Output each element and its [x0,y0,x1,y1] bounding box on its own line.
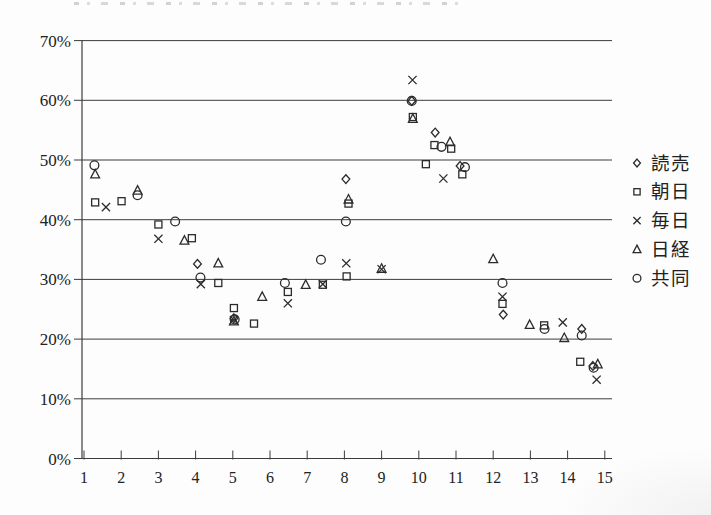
y-tick-label: 20% [40,330,71,349]
data-point-diamond [194,259,202,268]
data-point-triangle [377,264,386,272]
data-point-square [284,288,291,295]
y-tick-label: 50% [40,151,71,170]
legend-marker-x [633,217,640,224]
data-point-triangle [344,195,353,203]
data-point-square [215,279,222,286]
legend-marker-square [634,189,640,195]
x-tick-label: 8 [340,469,348,486]
legend-marker-triangle [633,245,641,252]
data-point-triangle [489,254,498,262]
data-point-square [188,235,195,242]
data-point-circle [133,191,142,200]
legend-label: 共同 [651,269,691,289]
data-point-circle [341,217,350,226]
x-tick-label: 11 [448,469,463,486]
y-tick-label: 0% [48,450,71,469]
data-point-x [408,76,416,84]
x-tick-label: 3 [154,469,162,486]
data-point-triangle [91,169,100,177]
x-tick-label: 5 [229,469,237,486]
data-point-square [230,305,237,312]
data-point-square [118,198,125,205]
data-point-square [155,221,162,228]
y-tick-label: 30% [40,270,71,289]
cropped-figure-caption [74,2,466,5]
data-point-diamond [499,310,507,319]
data-point-circle [498,279,507,288]
data-point-x [342,259,350,267]
legend-label: 毎日 [651,211,691,231]
data-point-triangle [214,258,223,266]
x-tick-label: 13 [522,469,538,486]
y-tick-label: 40% [40,211,71,230]
data-point-triangle [180,236,189,244]
x-tick-label: 4 [192,469,200,486]
x-tick-label: 7 [303,469,311,486]
legend-label: 読売 [651,154,691,174]
data-point-circle [90,161,99,170]
scanned-page: 0%10%20%30%40%50%60%70%12345678910111213… [0,0,711,515]
data-point-triangle [446,137,455,145]
data-point-triangle [258,292,267,300]
x-tick-label: 10 [411,469,427,486]
x-tick-label: 14 [560,469,576,486]
data-point-x [593,376,601,384]
x-tick-label: 2 [117,469,125,486]
y-tick-label: 10% [40,390,71,409]
data-point-diamond [342,175,350,184]
legend-label: 日経 [651,240,691,260]
y-tick-label: 60% [40,91,71,110]
data-point-square [422,161,429,168]
data-point-square [343,273,350,280]
data-point-x [154,235,162,243]
legend-label: 朝日 [651,182,691,202]
scatter-chart: 0%10%20%30%40%50%60%70%12345678910111213… [0,0,711,515]
data-point-circle [280,279,289,288]
y-tick-label: 70% [40,32,71,51]
legend-marker-diamond [634,159,641,167]
data-point-square [92,199,99,206]
data-point-triangle [560,333,569,341]
data-point-x [498,293,506,301]
data-point-diamond [431,128,439,137]
data-point-x [439,174,447,182]
data-point-x [102,203,110,211]
data-point-x [284,299,292,307]
x-tick-label: 1 [80,469,88,486]
x-tick-label: 6 [266,469,274,486]
data-point-triangle [525,320,534,328]
data-point-square [250,320,257,327]
x-tick-label: 9 [378,469,386,486]
data-point-triangle [301,280,310,288]
legend-marker-circle [633,274,641,282]
data-point-circle [171,217,180,226]
data-point-square [499,300,506,307]
data-point-square [577,358,584,365]
x-tick-label: 15 [597,469,613,486]
data-point-circle [317,255,326,264]
x-tick-label: 12 [485,469,501,486]
data-point-circle [196,273,205,282]
data-point-x [559,318,567,326]
